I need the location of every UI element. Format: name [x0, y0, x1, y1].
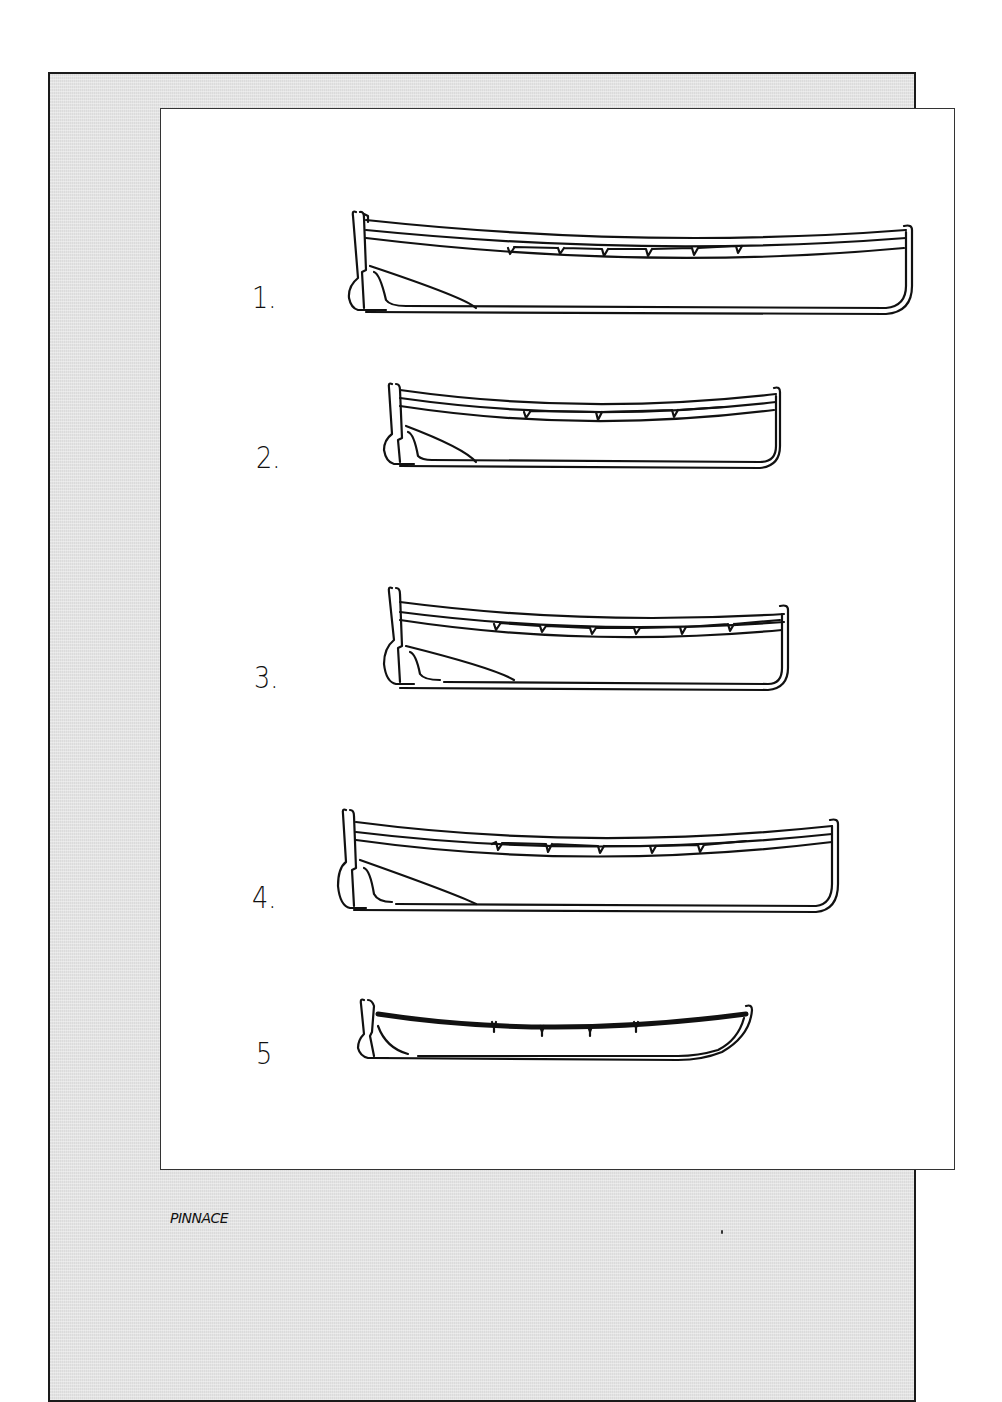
boat-drawing-2 — [384, 380, 784, 470]
boat-drawing-4 — [336, 806, 841, 916]
figure-caption: PINNACE — [170, 1210, 228, 1226]
figure-label-3: 3. — [254, 660, 278, 695]
figure-label-4: 4. — [252, 880, 276, 915]
figure-label-1: 1. — [252, 280, 276, 315]
boat-drawing-5 — [358, 996, 758, 1062]
figure-label-5: 5 — [256, 1036, 272, 1071]
scan-speck — [721, 1230, 723, 1234]
boat-drawing-3 — [384, 584, 794, 692]
figure-label-2: 2. — [256, 440, 280, 475]
boat-drawing-1 — [346, 208, 916, 320]
